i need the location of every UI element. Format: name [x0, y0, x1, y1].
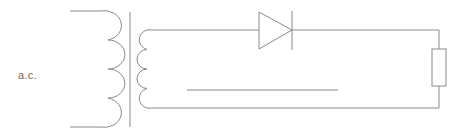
primary-winding [100, 11, 125, 128]
wire-resistor-to-secondary [152, 86, 439, 108]
circuit-diagram [0, 0, 464, 136]
resistor [432, 49, 446, 86]
diode [259, 11, 292, 50]
secondary-winding [137, 30, 152, 109]
transformer-secondary-coil [137, 30, 152, 109]
wire-diode-to-resistor [292, 30, 439, 49]
transformer-primary-coil [70, 11, 125, 128]
diode-anode-triangle [259, 12, 292, 49]
ac-source-label: a.c. [18, 69, 37, 81]
